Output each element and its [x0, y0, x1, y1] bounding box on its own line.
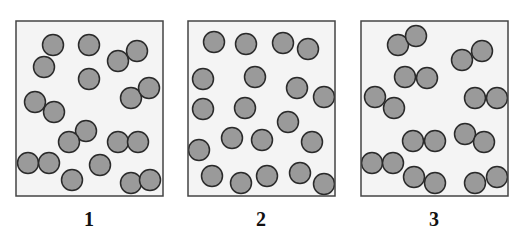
particle: [298, 39, 319, 60]
particle: [39, 153, 60, 174]
particle: [425, 173, 446, 194]
particle: [127, 41, 148, 62]
particle: [472, 41, 493, 62]
particle: [43, 35, 64, 56]
particle: [121, 173, 142, 194]
particle: [79, 69, 100, 90]
particle: [452, 50, 473, 71]
particle: [90, 155, 111, 176]
particle: [362, 153, 383, 174]
particle: [222, 128, 243, 149]
particle: [383, 153, 404, 174]
particle: [25, 92, 46, 113]
particle: [314, 87, 335, 108]
particle: [139, 78, 160, 99]
particle: [193, 69, 214, 90]
particle: [395, 67, 416, 88]
particle: [287, 78, 308, 99]
particle: [302, 132, 323, 153]
particle: [231, 173, 252, 194]
particle: [425, 131, 446, 152]
panel-label-3: 3: [429, 208, 439, 231]
particle: [487, 167, 508, 188]
particle-diagram: [0, 0, 513, 239]
particle: [108, 51, 129, 72]
particle: [202, 166, 223, 187]
particle: [417, 68, 438, 89]
particle: [365, 87, 386, 108]
particle: [273, 33, 294, 54]
particle: [18, 153, 39, 174]
particle: [257, 166, 278, 187]
particle: [404, 167, 425, 188]
particle: [290, 163, 311, 184]
particle: [252, 130, 273, 151]
particle: [108, 132, 129, 153]
particle: [235, 98, 256, 119]
particle: [487, 88, 508, 109]
particle: [465, 88, 486, 109]
particle: [455, 124, 476, 145]
particle: [278, 112, 299, 133]
particle: [204, 32, 225, 53]
panel-1: [16, 21, 163, 196]
particle: [189, 140, 210, 161]
particle: [59, 132, 80, 153]
panel-label-1: 1: [84, 208, 94, 231]
particle: [79, 35, 100, 56]
particle: [384, 98, 405, 119]
particle: [465, 173, 486, 194]
particle: [403, 131, 424, 152]
particle: [44, 102, 65, 123]
particle: [128, 132, 149, 153]
particle: [236, 34, 257, 55]
panel-2: [188, 21, 335, 196]
panel-3: [361, 21, 508, 196]
particle: [314, 174, 335, 195]
particle: [406, 26, 427, 47]
panel-label-2: 2: [256, 208, 266, 231]
particle: [62, 170, 83, 191]
particle: [193, 99, 214, 120]
particle: [34, 57, 55, 78]
particle: [474, 132, 495, 153]
particle: [140, 170, 161, 191]
particle: [245, 67, 266, 88]
